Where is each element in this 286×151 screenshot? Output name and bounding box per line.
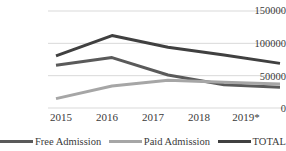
legend-swatch-total: [218, 140, 251, 143]
legend-label-total: TOTAL: [253, 136, 286, 147]
legend-label-paid-admission: Paid Admission: [144, 136, 210, 147]
y-tick-label-100000: 100000: [242, 39, 286, 49]
legend-swatch-paid-admission: [109, 140, 142, 143]
chart-legend: Free Admission Paid Admission TOTAL: [0, 131, 286, 151]
legend-label-free-admission: Free Admission: [35, 136, 101, 147]
y-tick-label-50000: 50000: [242, 72, 286, 82]
plot-area: 150000 100000 50000 0: [0, 0, 286, 112]
legend-item-free-admission[interactable]: Free Admission: [0, 136, 101, 147]
x-tick-label-2018: 2018: [188, 111, 210, 123]
x-tick-label-2019: 2019*: [232, 111, 260, 123]
x-tick-label-2017: 2017: [142, 111, 164, 123]
x-axis: 2015 2016 2017 2018 2019*: [0, 111, 286, 129]
legend-swatch-free-admission: [0, 140, 33, 143]
x-tick-label-2015: 2015: [50, 111, 72, 123]
legend-item-total[interactable]: TOTAL: [218, 136, 286, 147]
series-line-paid-admission: [56, 80, 280, 98]
x-tick-label-2016: 2016: [96, 111, 118, 123]
legend-item-paid-admission[interactable]: Paid Admission: [109, 136, 210, 147]
line-chart: 150000 100000 50000 0 2015 2016 2017 201…: [0, 0, 286, 151]
y-tick-label-150000: 150000: [242, 6, 286, 16]
chart-canvas: [0, 0, 286, 112]
